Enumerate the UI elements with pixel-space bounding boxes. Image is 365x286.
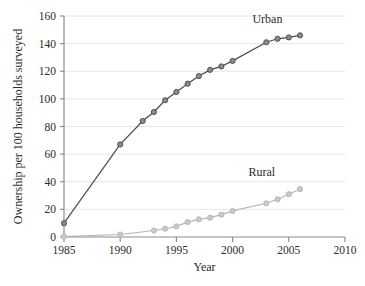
x-tick-label-2000: 2000 [221, 244, 244, 256]
x-tick-label-1990: 1990 [109, 244, 132, 256]
x-axis-title: Year [193, 260, 215, 274]
data-point-urban-1985 [61, 221, 66, 226]
series-line-urban [64, 35, 300, 223]
y-tick-label-40: 40 [45, 176, 57, 188]
data-point-urban-2006 [297, 33, 302, 38]
y-tick-label-0: 0 [50, 231, 56, 243]
y-axis-title: Ownership per 100 households surveyed [11, 29, 25, 224]
y-tick-label-20: 20 [45, 203, 57, 215]
y-tick-label-60: 60 [45, 148, 57, 160]
x-tick-label-2010: 2010 [334, 244, 357, 256]
y-tick-label-160: 160 [39, 10, 57, 22]
data-point-rural-1996 [185, 219, 190, 224]
data-point-urban-2000 [230, 58, 235, 63]
data-point-rural-1994 [163, 226, 168, 231]
data-point-rural-1990 [118, 232, 123, 237]
series-label-urban: Urban [252, 12, 282, 26]
data-point-rural-2004 [275, 197, 280, 202]
data-point-urban-1992 [140, 118, 145, 123]
data-point-rural-1999 [219, 212, 224, 217]
y-tick-label-140: 140 [39, 38, 57, 50]
data-point-urban-2003 [264, 40, 269, 45]
data-point-rural-2005 [286, 192, 291, 197]
data-point-rural-2006 [297, 186, 302, 191]
y-tick-label-100: 100 [39, 93, 57, 105]
data-point-urban-1994 [163, 98, 168, 103]
data-point-urban-1999 [219, 64, 224, 69]
x-tick-label-1995: 1995 [165, 244, 188, 256]
data-point-rural-1993 [151, 228, 156, 233]
data-point-urban-1993 [151, 109, 156, 114]
data-point-rural-1985 [61, 234, 66, 239]
data-point-urban-1998 [208, 67, 213, 72]
data-point-urban-1990 [118, 142, 123, 147]
data-point-rural-1997 [196, 217, 201, 222]
y-tick-label-120: 120 [39, 65, 57, 77]
data-point-rural-2000 [230, 208, 235, 213]
data-point-urban-1995 [174, 89, 179, 94]
line-chart: 0204060801001201401601985199019952000200… [0, 0, 365, 286]
series-rural [61, 186, 302, 239]
data-point-rural-2003 [264, 201, 269, 206]
data-point-urban-1997 [196, 73, 201, 78]
data-point-rural-1998 [208, 215, 213, 220]
y-tick-label-80: 80 [45, 121, 57, 133]
data-point-rural-1995 [174, 224, 179, 229]
series-line-rural [64, 189, 300, 237]
figure-container: 0204060801001201401601985199019952000200… [0, 0, 365, 286]
data-point-urban-2005 [286, 35, 291, 40]
series-urban [61, 33, 302, 226]
data-point-urban-2004 [275, 36, 280, 41]
series-label-rural: Rural [248, 165, 275, 179]
data-point-urban-1996 [185, 81, 190, 86]
x-tick-label-2005: 2005 [277, 244, 300, 256]
x-tick-label-1985: 1985 [53, 244, 76, 256]
